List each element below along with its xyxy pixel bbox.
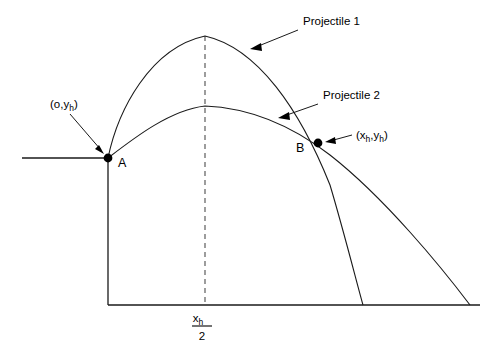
origin-coordinate-leader — [70, 114, 101, 150]
projectile-1-leader — [256, 30, 298, 47]
landing-coordinate-mid: ,y — [370, 129, 379, 141]
point-b-dot — [314, 139, 323, 148]
point-a-dot — [104, 154, 113, 163]
landing-coordinate-arrowhead — [325, 137, 336, 144]
projectile-1-label: Projectile 1 — [303, 15, 360, 27]
origin-coordinate-label: (o,yh) — [50, 98, 78, 113]
landing-coordinate-label: (xh,yh) — [356, 129, 388, 144]
projectile-diagram: A B (o,yh) (xh,yh) Projectile 1 Projecti… — [0, 0, 496, 350]
projectile-2-label: Projectile 2 — [323, 89, 380, 101]
x-half-numerator: xh — [193, 312, 204, 327]
landing-coordinate-close: ) — [384, 129, 388, 141]
origin-coordinate-open: (o,y — [50, 98, 69, 110]
projectile-2-curve — [108, 106, 470, 305]
x-half-denominator: 2 — [199, 330, 205, 342]
projectile-1-curve — [108, 36, 363, 305]
projectile-2-arrowhead — [278, 112, 290, 120]
projectile-1-arrowhead — [250, 43, 262, 51]
origin-coordinate-arrowhead — [95, 145, 104, 154]
point-b-label: B — [296, 141, 304, 155]
projectile-figure-svg: A B (o,yh) (xh,yh) Projectile 1 Projecti… — [0, 0, 496, 350]
point-a-label: A — [118, 156, 127, 170]
origin-coordinate-close: ) — [74, 98, 78, 110]
landing-coordinate-open: (x — [356, 129, 366, 141]
